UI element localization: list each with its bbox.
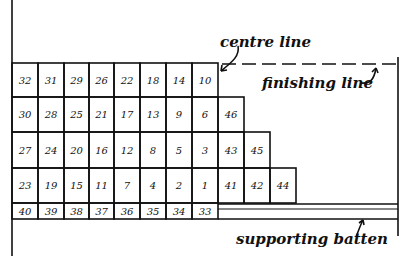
tile-number: 24 [44,145,58,156]
tile-number: 6 [202,109,209,120]
tile-number: 2 [175,180,182,191]
tile-number: 25 [69,109,83,120]
tile-number: 15 [70,180,83,191]
tile-number: 46 [224,109,238,120]
tile-number: 1 [202,180,208,191]
tile-number: 43 [224,145,238,156]
tiling-diagram: 3231292622181410302825211713964627242016… [0,0,407,262]
supporting-batten [218,204,398,219]
tile-number: 36 [121,206,134,217]
supporting-batten-label: supporting batten [236,230,388,248]
tile-number: 33 [199,206,212,217]
tile-number: 29 [69,75,83,86]
tile-number: 26 [94,75,108,86]
tile-number: 11 [95,180,108,191]
tile-number: 41 [224,180,238,191]
tile-number: 17 [121,109,134,120]
tile-number: 18 [147,75,160,86]
tile-grid: 3231292622181410302825211713964627242016… [12,63,296,219]
tile-number: 35 [147,206,160,217]
tile-number: 23 [18,180,32,191]
tile-number: 40 [18,206,32,217]
tile-number: 13 [147,109,160,120]
tile-number: 3 [202,145,208,156]
tile-number: 38 [70,206,83,217]
tile-number: 21 [94,109,108,120]
tile-number: 27 [18,145,32,156]
finishing-line-label: finishing line [261,74,373,92]
tile-number: 28 [44,109,58,120]
tile-number: 12 [121,145,134,156]
tile-number: 39 [45,206,58,217]
tile-number: 30 [19,109,32,120]
tile-number: 10 [199,75,212,86]
tile-number: 20 [69,145,83,156]
tile-number: 4 [149,180,156,191]
tile-number: 16 [95,145,108,156]
tile-number: 14 [173,75,186,86]
tile-number: 34 [173,206,186,217]
tile-number: 45 [250,145,264,156]
centre-line-label: centre line [220,33,311,51]
tile-number: 8 [150,145,156,156]
tile-number: 37 [95,206,108,217]
tile-number: 22 [120,75,134,86]
tile-number: 7 [124,180,131,191]
tile-number: 32 [19,75,32,86]
tile-number: 9 [176,109,183,120]
tile-number: 42 [250,180,264,191]
tile-number: 5 [176,145,182,156]
tile-number: 31 [45,75,58,86]
tile-number: 44 [276,180,290,191]
tile-number: 19 [45,180,58,191]
